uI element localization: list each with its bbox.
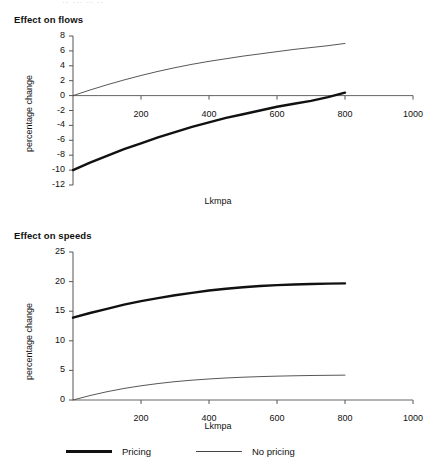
x-tick-label: 600 [257,109,297,119]
series-line-no-pricing [73,43,345,95]
y-tick-label: 2 [35,75,65,85]
y-tick-label: 10 [35,335,65,345]
chart-panel-effect-on-speeds: Effect on speeds percentage change 25201… [0,225,440,445]
x-tick-label: 200 [121,413,161,423]
y-tick-label: 0 [35,90,65,100]
legend-label-no-pricing: No pricing [252,444,295,460]
y-tick-label: 20 [35,276,65,286]
y-tick-label: -4 [35,119,65,129]
legend-line-no-pricing-icon [196,451,242,452]
y-tick-label: 15 [35,305,65,315]
x-tick-label: 1000 [393,109,433,119]
y-tick-label: -6 [35,134,65,144]
x-tick-label: 400 [189,109,229,119]
y-tick-label: 0 [35,394,65,404]
x-tick-label: 800 [325,413,365,423]
y-tick-label: 5 [35,364,65,374]
legend-item-pricing: Pricing [66,444,196,460]
plot-area-flows: 86420-2-4-6-8-10-122004006008001000 [0,0,440,215]
y-tick-label: 25 [35,246,65,256]
y-tick-label: -8 [35,149,65,159]
y-tick-label: -10 [35,164,65,174]
series-line-no-pricing [73,375,345,400]
chart-legend: Pricing No pricing [0,444,440,466]
x-tick-label: 1000 [393,413,433,423]
y-tick-label: 4 [35,60,65,70]
series-line-pricing [73,283,345,317]
y-tick-label: -12 [35,179,65,189]
y-tick-label: -2 [35,105,65,115]
x-axis-label-flows: Lkmpa [158,196,278,206]
y-tick-label: 8 [35,30,65,40]
legend-item-no-pricing: No pricing [196,444,346,460]
series-line-pricing [73,93,345,170]
x-tick-label: 200 [121,109,161,119]
chart-panel-effect-on-flows: Effect on flows percentage change 86420-… [0,0,440,215]
x-axis-label-speeds: Lkmpa [158,421,278,431]
y-tick-label: 6 [35,45,65,55]
legend-label-pricing: Pricing [122,444,151,460]
legend-line-pricing-icon [66,450,112,453]
plot-area-speeds: 25201510502004006008001000 [0,225,440,445]
figure-two-line-charts: ·· ··· ·· ·· Effect on flows percentage … [0,0,440,471]
x-tick-label: 800 [325,109,365,119]
